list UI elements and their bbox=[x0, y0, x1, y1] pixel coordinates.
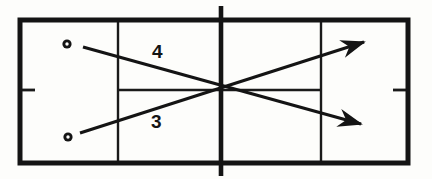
ball-position-lower-center bbox=[66, 135, 69, 138]
tennis-court-diagram bbox=[0, 0, 432, 179]
position-markers bbox=[62, 39, 72, 141]
ball-position-upper-center bbox=[65, 42, 68, 45]
diagram-canvas: 4 3 bbox=[0, 0, 432, 179]
shot-label-4: 4 bbox=[152, 42, 163, 61]
shot-label-3: 3 bbox=[151, 112, 162, 131]
